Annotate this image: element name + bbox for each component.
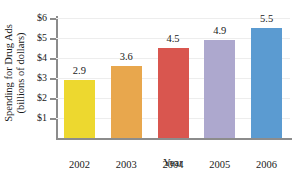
y-axis-tick-label: $3 bbox=[7, 72, 47, 83]
bar-value-label: 4.9 bbox=[200, 25, 240, 36]
bar-chart-figure: Spending for Drug Ads (billions of dolla… bbox=[0, 0, 295, 175]
x-axis-line bbox=[56, 138, 292, 140]
bar-value-label: 3.6 bbox=[106, 51, 146, 62]
bar bbox=[158, 48, 189, 138]
bar-value-label: 2.9 bbox=[59, 65, 99, 76]
y-axis-tick-label: $4 bbox=[7, 52, 47, 63]
bar-value-label: 4.5 bbox=[153, 33, 193, 44]
bar-value-label: 5.5 bbox=[247, 13, 287, 24]
plot-area: 2.93.64.54.95.5 20022003200420052006 bbox=[56, 18, 290, 138]
y-axis-tick-label: $2 bbox=[7, 92, 47, 103]
y-axis-tick-label: $1 bbox=[7, 112, 47, 123]
bar bbox=[251, 28, 282, 138]
y-axis-tick-label: $5 bbox=[7, 32, 47, 43]
bar bbox=[111, 66, 142, 138]
x-axis-title: Year bbox=[56, 157, 290, 168]
bar bbox=[64, 80, 95, 138]
bar bbox=[204, 40, 235, 138]
y-axis-tick-label: $6 bbox=[7, 12, 47, 23]
